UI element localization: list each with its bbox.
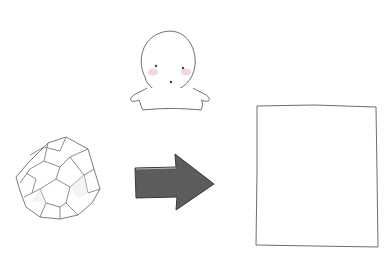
- illustration-canvas: [0, 0, 389, 255]
- character-icon: [125, 22, 215, 114]
- crumpled-paper-ball-icon: [8, 133, 103, 225]
- arrow-right-icon: [132, 152, 218, 212]
- blank-paper-sheet-icon: [254, 103, 380, 249]
